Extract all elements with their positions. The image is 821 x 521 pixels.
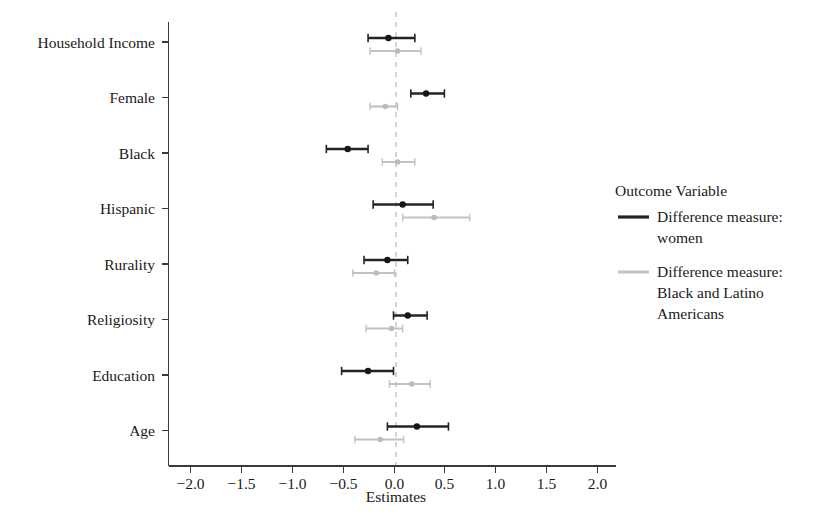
y-tick-label-household-income: Household Income [37,34,155,51]
x-tick-label: 1.5 [537,475,557,492]
estimate-row [364,256,408,264]
x-tick-label: −1.0 [278,475,306,492]
y-tick-label-hispanic: Hispanic [100,200,155,217]
y-tick-label-religiosity: Religiosity [87,311,155,328]
point-estimate-marker [385,35,391,41]
legend-entry-black-latino[interactable]: Difference measure: Black and Latino Ame… [618,263,783,322]
x-tick-label: 0.5 [435,475,455,492]
legend-label-women-line1: Difference measure: [657,208,783,225]
legend-title: Outcome Variable [615,182,727,199]
x-tick-marks [191,466,598,473]
legend-label-black-latino-line3: Americans [657,305,724,322]
point-estimate-marker [423,90,429,96]
point-estimate-marker [389,326,395,332]
point-estimate-marker [431,215,437,221]
point-estimate-marker [345,146,351,152]
y-tick-label-age: Age [129,422,155,439]
estimate-row [353,269,395,277]
legend-label-black-latino-line1: Difference measure: [657,263,783,280]
x-tick-label: 1.0 [486,475,506,492]
x-tick-label: −1.5 [227,475,255,492]
x-tick-label: −2.0 [176,475,204,492]
legend-entry-women[interactable]: Difference measure: women [618,208,783,246]
estimate-row [326,145,368,153]
x-tick-label: −0.5 [329,475,357,492]
y-axis-tick-labels: Household Income Female Black Hispanic R… [37,34,155,440]
estimate-row [394,311,428,319]
point-estimate-marker [405,312,411,318]
point-estimate-marker [414,423,420,429]
point-estimate-marker [383,104,389,110]
y-tick-label-rurality: Rurality [104,256,155,273]
x-axis-title: Estimates [366,488,426,505]
point-estimate-marker [409,381,415,387]
point-estimate-marker [365,368,371,374]
point-estimate-marker [395,48,401,54]
plot-canvas: Household Income Female Black Hispanic R… [0,0,821,521]
legend: Outcome Variable Difference measure: wom… [615,182,783,322]
point-estimate-marker [373,270,379,276]
y-tick-label-black: Black [119,145,155,162]
estimate-row [411,89,445,97]
estimate-row [342,367,394,375]
y-tick-marks [162,42,169,431]
point-estimate-marker [377,437,383,443]
point-estimate-marker [399,201,405,207]
legend-label-women-line2: women [657,229,703,246]
point-estimate-marker [384,257,390,263]
estimate-row [403,214,470,222]
estimate-row [382,158,415,166]
estimate-row [368,34,415,42]
estimate-row [366,325,403,333]
coefficient-plot-figure: Household Income Female Black Hispanic R… [0,0,821,521]
x-tick-label: 2.0 [588,475,608,492]
estimate-row [373,200,433,208]
y-tick-label-education: Education [92,367,155,384]
legend-label-black-latino-line2: Black and Latino [657,284,764,301]
series-women [326,34,448,431]
series-black-latino-americans [353,47,470,443]
point-estimate-marker [395,159,401,165]
estimate-row [370,103,397,111]
y-tick-label-female: Female [109,89,155,106]
